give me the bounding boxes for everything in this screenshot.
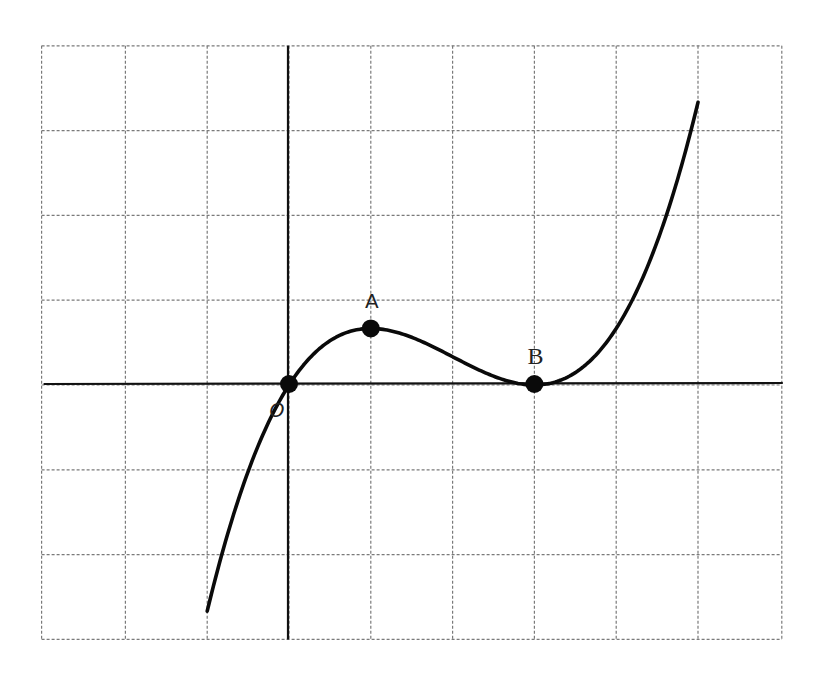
point-b [525,375,543,393]
point-a-label: A [365,291,379,311]
axes [44,46,783,640]
point-b-label: B [527,344,543,368]
x-axis [44,383,783,384]
point-a [362,319,380,337]
origin-label: O [270,401,285,420]
key-points [280,319,543,393]
function-graph: O A B [0,0,821,677]
grid [42,46,782,640]
plot-area [0,0,821,677]
origin-point [280,375,298,393]
